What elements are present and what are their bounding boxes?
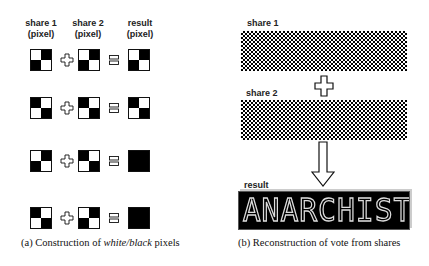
equals-icon	[109, 213, 119, 223]
pixel-cell	[79, 208, 89, 218]
pixel-cell	[89, 60, 99, 70]
pixel-cell	[129, 218, 139, 228]
pixel-cell	[139, 50, 149, 60]
pixel-cell	[41, 208, 51, 218]
pixel-cell	[79, 151, 89, 161]
pixel-cell	[129, 50, 139, 60]
pixel-cell	[129, 60, 139, 70]
header-share-1: share 1 (pixel)	[16, 18, 66, 40]
arrow-down-icon	[311, 141, 335, 187]
pixel-cell	[129, 161, 139, 171]
result-pixel-square	[128, 49, 150, 71]
pixel-cell	[79, 60, 89, 70]
pixel-cell	[41, 50, 51, 60]
pixel-cell	[41, 161, 51, 171]
header-share-2-sub: (pixel)	[63, 29, 113, 40]
header-share-1-sub: (pixel)	[16, 29, 66, 40]
pixel-cell	[79, 218, 89, 228]
pixel-cell	[41, 108, 51, 118]
header-share-1-title: share 1	[16, 18, 66, 29]
plus-icon	[60, 154, 74, 168]
pixel-cell	[41, 218, 51, 228]
header-share-2: share 2 (pixel)	[63, 18, 113, 40]
share1-pixel-square	[30, 97, 52, 119]
result-pixel-square	[128, 97, 150, 119]
header-result-title: result	[115, 18, 165, 29]
header-result-sub: (pixel)	[115, 29, 165, 40]
caption-a-suffix: pixels	[152, 237, 180, 248]
pixel-cell	[79, 98, 89, 108]
equals-icon	[109, 55, 119, 65]
pixel-cell	[139, 161, 149, 171]
share-2-label: share 2	[246, 88, 278, 98]
pixel-cell	[31, 208, 41, 218]
result-pixel-square	[128, 150, 150, 172]
pixel-cell	[139, 98, 149, 108]
pixel-cell	[41, 60, 51, 70]
pixel-cell	[31, 151, 41, 161]
pixel-cell	[41, 151, 51, 161]
share-1-label: share 1	[247, 18, 279, 28]
result-display: ANARCHIST	[238, 191, 410, 230]
pixel-cell	[31, 60, 41, 70]
pixel-cell	[41, 98, 51, 108]
equals-icon	[109, 156, 119, 166]
share2-pixel-square	[78, 150, 100, 172]
pixel-cell	[129, 151, 139, 161]
pixel-cell	[89, 218, 99, 228]
pixel-cell	[79, 50, 89, 60]
pixel-cell	[139, 208, 149, 218]
pixel-cell	[31, 98, 41, 108]
caption-a-italic: white/black	[104, 237, 152, 248]
pixel-cell	[89, 151, 99, 161]
caption-a: (a) Construction of white/black pixels	[21, 237, 180, 248]
pixel-cell	[139, 108, 149, 118]
pixel-cell	[89, 98, 99, 108]
plus-icon	[314, 75, 334, 97]
share-2-noise-image	[241, 100, 407, 140]
result-label: result	[244, 180, 269, 190]
caption-b: (b) Reconstruction of vote from shares	[238, 237, 400, 248]
share2-pixel-square	[78, 49, 100, 71]
plus-icon	[60, 101, 74, 115]
header-result: result (pixel)	[115, 18, 165, 40]
pixel-cell	[31, 50, 41, 60]
pixel-cell	[89, 208, 99, 218]
share2-pixel-square	[78, 97, 100, 119]
pixel-cell	[129, 208, 139, 218]
pixel-cell	[139, 151, 149, 161]
pixel-cell	[79, 108, 89, 118]
share2-pixel-square	[78, 207, 100, 229]
pixel-cell	[79, 161, 89, 171]
equals-icon	[109, 103, 119, 113]
pixel-cell	[139, 218, 149, 228]
share1-pixel-square	[30, 49, 52, 71]
pixel-cell	[31, 218, 41, 228]
pixel-cell	[31, 108, 41, 118]
pixel-cell	[89, 108, 99, 118]
pixel-cell	[129, 98, 139, 108]
pixel-cell	[129, 108, 139, 118]
pixel-cell	[89, 50, 99, 60]
result-text: ANARCHIST	[239, 192, 397, 228]
plus-icon	[60, 53, 74, 67]
caption-a-prefix: (a) Construction of	[21, 237, 104, 248]
pixel-cell	[31, 161, 41, 171]
share1-pixel-square	[30, 207, 52, 229]
pixel-cell	[89, 161, 99, 171]
header-share-2-title: share 2	[63, 18, 113, 29]
result-pixel-square	[128, 207, 150, 229]
pixel-cell	[139, 60, 149, 70]
share-1-noise-image	[241, 31, 407, 71]
plus-icon	[60, 211, 74, 225]
share1-pixel-square	[30, 150, 52, 172]
